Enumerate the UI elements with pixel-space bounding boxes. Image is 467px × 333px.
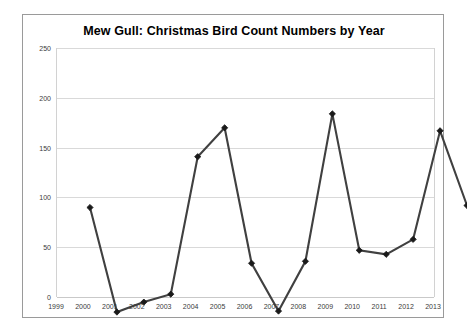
data-point-marker	[87, 204, 93, 210]
line-series-mew-gull	[90, 81, 467, 330]
plot-area	[56, 48, 435, 297]
y-tick-label: 50	[25, 244, 51, 251]
gridline	[57, 48, 434, 49]
data-point-marker	[437, 128, 443, 134]
data-point-marker	[356, 247, 362, 253]
data-point-marker	[168, 291, 174, 297]
y-tick-label: 0	[25, 294, 51, 301]
chart-title: Mew Gull: Christmas Bird Count Numbers b…	[23, 24, 445, 38]
y-tick-label: 250	[25, 45, 51, 52]
y-tick-label: 200	[25, 94, 51, 101]
y-tick-label: 150	[25, 144, 51, 151]
y-axis-tick-labels: 050100150200250	[23, 48, 51, 297]
chart-container: Mew Gull: Christmas Bird Count Numbers b…	[22, 14, 444, 318]
x-tick-label: 2013	[413, 303, 453, 310]
x-axis-tick-labels: 1999200020012002200320042005200620072008…	[56, 303, 433, 317]
y-tick-label: 100	[25, 194, 51, 201]
data-point-marker	[329, 111, 335, 117]
series-line	[90, 114, 467, 312]
